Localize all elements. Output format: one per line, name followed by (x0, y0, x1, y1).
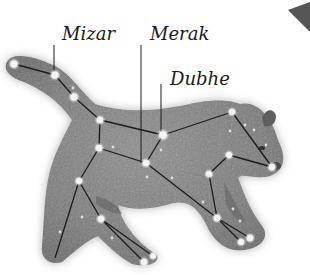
label-dubhe: Dubhe (170, 70, 230, 88)
minor-star (112, 146, 115, 149)
star-front-paw-1 (238, 239, 244, 245)
star-megrez (97, 117, 103, 123)
minor-star (111, 237, 114, 240)
label-mizar: Mizar (62, 25, 115, 43)
star-back-paw-1 (141, 259, 147, 265)
star-neck (226, 152, 232, 158)
star-hip (76, 178, 82, 184)
minor-star (244, 124, 247, 127)
star-dubhe (159, 131, 167, 139)
minor-star (59, 231, 62, 234)
minor-star (160, 149, 163, 152)
star-back-knee (98, 216, 104, 222)
minor-star (239, 220, 242, 223)
minor-star (202, 201, 205, 204)
star-back-paw-2 (150, 253, 156, 259)
constellation-figure: Mizar Merak Dubhe (0, 0, 310, 275)
minor-star (171, 177, 174, 180)
star-shoulder (206, 171, 212, 177)
label-merak: Merak (150, 25, 209, 43)
minor-star (97, 99, 100, 102)
star-phecda (96, 145, 102, 151)
minor-star (253, 129, 256, 132)
minor-star (232, 208, 235, 211)
star-front-knee (214, 215, 220, 221)
minor-star (48, 61, 51, 64)
minor-star (265, 144, 268, 147)
corner-wedge (288, 2, 310, 32)
star-alioth (71, 94, 78, 101)
star-tail-tip (11, 61, 18, 68)
star-nose (269, 164, 275, 170)
star-front-paw-2 (247, 235, 253, 241)
minor-star (72, 87, 75, 90)
bear-ear (262, 110, 276, 126)
minor-star (229, 130, 232, 133)
minor-star (41, 184, 44, 187)
star-mizar (52, 72, 59, 79)
minor-star (146, 176, 149, 179)
star-head-top (229, 109, 235, 115)
minor-star (81, 216, 84, 219)
star-merak (143, 160, 149, 166)
